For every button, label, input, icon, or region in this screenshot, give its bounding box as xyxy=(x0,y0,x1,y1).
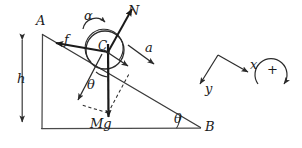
label-angular-acceleration: α xyxy=(84,9,93,22)
coordinate-axes xyxy=(200,55,248,84)
label-weight: Mg xyxy=(90,117,112,130)
label-positive-sense: + xyxy=(267,63,278,76)
label-height: h xyxy=(17,72,25,85)
label-angle-theta-b: θ xyxy=(174,112,182,125)
incline-vertical-side xyxy=(42,35,43,129)
label-center-of-mass: C xyxy=(98,40,107,52)
diagram-canvas: A N α f C a θ Mg h θ B x y + xyxy=(0,0,302,148)
axis-y-arrow xyxy=(200,55,218,84)
label-friction-force: f xyxy=(64,33,69,46)
label-normal-force: N xyxy=(128,4,139,17)
label-acceleration: a xyxy=(145,41,153,54)
label-axis-y: y xyxy=(205,82,212,95)
label-angle-theta-body: θ xyxy=(87,78,95,91)
label-vertex-b: B xyxy=(205,120,215,133)
axis-x-arrow xyxy=(218,55,248,72)
label-axis-x: x xyxy=(250,58,257,71)
weight-force-arrow xyxy=(108,44,109,117)
label-vertex-a: A xyxy=(36,14,45,27)
